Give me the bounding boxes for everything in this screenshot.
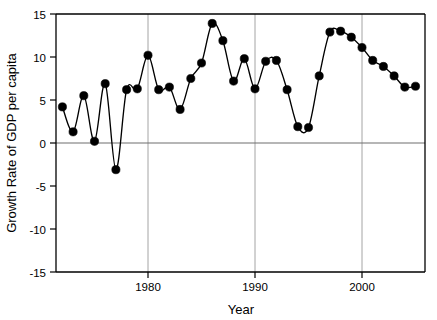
ytick-label-0: 0 [40, 138, 46, 150]
data-point [369, 56, 377, 64]
data-point [401, 83, 409, 91]
xtick-label-2000: 2000 [349, 281, 375, 293]
data-point [358, 43, 366, 51]
data-point [219, 37, 227, 45]
chart-figure: 15 10 5 0 -5 -10 -15 1980 1990 2000 Year… [0, 0, 437, 320]
data-point [155, 86, 163, 94]
data-point [123, 86, 131, 94]
data-point [112, 166, 120, 174]
data-point [101, 80, 109, 88]
data-point [337, 27, 345, 35]
data-point [80, 92, 88, 100]
data-point [176, 105, 184, 113]
data-point [208, 19, 216, 27]
data-point [90, 137, 98, 145]
data-point [304, 123, 312, 131]
data-point [165, 83, 173, 91]
data-point [272, 56, 280, 64]
data-point [262, 57, 270, 65]
xtick-label-1990: 1990 [242, 281, 268, 293]
data-point [230, 77, 238, 85]
ytick-label-minus10: -10 [29, 224, 46, 236]
data-point [187, 74, 195, 82]
x-axis-title: Year [228, 302, 255, 317]
xtick-label-1980: 1980 [135, 281, 161, 293]
ytick-label-minus5: -5 [36, 181, 46, 193]
data-point [315, 72, 323, 80]
data-point [379, 62, 387, 70]
data-point [133, 85, 141, 93]
data-point [251, 85, 259, 93]
data-point [283, 86, 291, 94]
data-point [58, 103, 66, 111]
data-point [69, 128, 77, 136]
data-point [326, 28, 334, 36]
data-point [390, 72, 398, 80]
data-point [197, 59, 205, 67]
data-point [240, 55, 248, 63]
ytick-label-minus15: -15 [29, 267, 46, 279]
ytick-label-5: 5 [40, 95, 46, 107]
data-point [411, 82, 419, 90]
ytick-label-10: 10 [33, 52, 46, 64]
data-point [347, 33, 355, 41]
ytick-label-15: 15 [33, 9, 46, 21]
y-axis-title: Growth Rate of GDP per capita [4, 52, 19, 232]
gdp-growth-line-chart: 15 10 5 0 -5 -10 -15 1980 1990 2000 Year… [0, 0, 437, 320]
data-point [144, 51, 152, 59]
data-point [294, 123, 302, 131]
